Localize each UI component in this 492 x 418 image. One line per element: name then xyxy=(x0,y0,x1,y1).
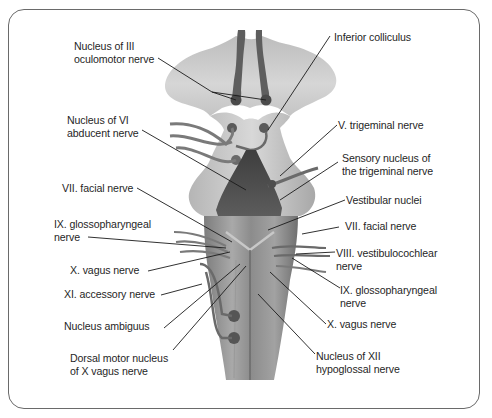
label-dorsal-motor-nucleus: Dorsal motor nucleus of X vagus nerve xyxy=(70,352,168,377)
label-sensory-trigeminal: Sensory nucleus of the trigeminal nerve xyxy=(342,152,433,177)
label-glossopharyngeal-right: IX. glossopharyngeal nerve xyxy=(340,284,437,309)
label-accessory-nerve: XI. accessory nerve xyxy=(64,288,155,301)
label-facial-nerve-left: VII. facial nerve xyxy=(62,182,133,195)
midbrain xyxy=(165,30,336,116)
label-nucleus-iii: Nucleus of III oculomotor nerve xyxy=(74,40,154,65)
label-inferior-colliculus: Inferior colliculus xyxy=(334,31,411,44)
label-facial-nerve-right: VII. facial nerve xyxy=(345,220,416,233)
label-vestibulocochlear: VIII. vestibulocochlear nerve xyxy=(336,247,437,272)
label-trigeminal-nerve: V. trigeminal nerve xyxy=(338,119,423,132)
label-glossopharyngeal-left: IX. glossopharyngeal nerve xyxy=(54,218,151,243)
nucleus-vi-right xyxy=(259,123,269,133)
label-vagus-right: X. vagus nerve xyxy=(327,318,396,331)
label-nucleus-xii: Nucleus of XII hypoglossal nerve xyxy=(316,350,400,375)
label-nucleus-vi: Nucleus of VI abducent nerve xyxy=(67,114,139,139)
label-vestibular-nuclei: Vestibular nuclei xyxy=(346,194,421,207)
label-vagus-left: X. vagus nerve xyxy=(70,264,139,277)
label-nucleus-ambiguus: Nucleus ambiguus xyxy=(64,320,150,333)
medulla xyxy=(174,216,330,380)
